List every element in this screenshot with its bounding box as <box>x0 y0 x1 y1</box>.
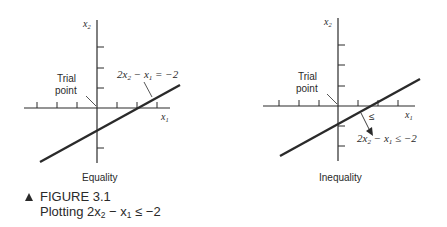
figure-number: FIGURE 3.1 <box>40 190 111 203</box>
equation-label: 2x2 − x1 = −2 <box>117 69 178 80</box>
equation-leader <box>144 82 152 97</box>
equality-panel <box>24 20 180 163</box>
direction-symbol: ≤ <box>369 112 375 122</box>
inequality-label: 2x2 − x1 ≤ −2 <box>357 133 417 144</box>
panel-title-equality: Equality <box>82 173 118 183</box>
x-axis-label: x1 <box>405 110 413 120</box>
trial-label-line2: point <box>55 86 77 96</box>
trial-label-line2: point <box>296 84 318 94</box>
panel-title-inequality: Inequality <box>319 173 362 183</box>
trial-label-line1: Trial <box>298 72 317 82</box>
caption-triangle-icon <box>25 193 33 201</box>
figure-caption: Plotting 2x2 − x1 ≤ −2 <box>40 205 161 218</box>
trial-point-leader <box>327 94 337 104</box>
x-axis-label: x1 <box>161 112 169 122</box>
y-axis-label: x2 <box>324 17 332 27</box>
trial-point-leader <box>86 96 96 106</box>
constraint-line <box>40 85 180 162</box>
y-ticks <box>97 47 104 148</box>
y-ticks <box>338 45 345 146</box>
y-axis-label: x2 <box>83 19 91 29</box>
trial-label-line1: Trial <box>57 74 76 84</box>
